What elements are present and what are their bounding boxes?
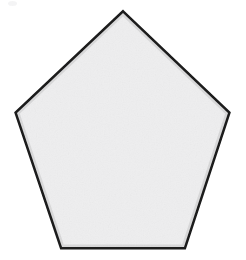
- image-canvas: [0, 0, 246, 260]
- pentagon-figure: [0, 0, 246, 260]
